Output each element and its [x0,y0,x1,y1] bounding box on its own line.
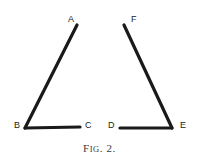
vertex-label-c: C [85,121,92,130]
line-segment-ba [25,25,77,128]
line-segment-bc [25,127,80,128]
figure-caption: FIG. 2. [0,143,199,154]
vertex-label-e: E [180,121,186,130]
angle-def-group [120,25,172,128]
caption-smallcaps: IG [90,144,100,154]
figure-drawing-canvas [0,0,199,165]
vertex-label-f: F [131,15,137,24]
vertex-label-a: A [68,15,74,24]
caption-suffix: . 2. [100,142,116,154]
line-segment-ef [124,25,172,128]
angle-abc-group [25,25,80,128]
vertex-label-d: D [108,121,115,130]
caption-prefix: F [83,142,90,154]
figure-page: A B C D E F FIG. 2. [0,0,199,165]
vertex-label-b: B [14,121,20,130]
